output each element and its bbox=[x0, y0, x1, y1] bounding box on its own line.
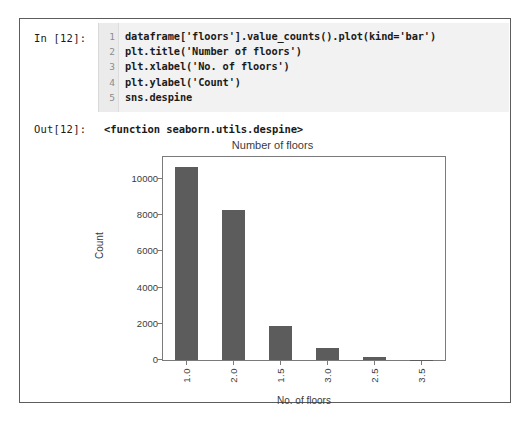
x-tick-label: 1.0 bbox=[181, 368, 192, 383]
x-tick-label: 3.5 bbox=[416, 368, 427, 383]
x-tick-label: 1.5 bbox=[275, 368, 286, 383]
code-line: sns.despine bbox=[125, 90, 509, 105]
line-number: 4 bbox=[99, 75, 118, 90]
line-number: 3 bbox=[99, 59, 118, 74]
bar bbox=[222, 210, 246, 360]
x-tick-mark bbox=[280, 361, 281, 365]
y-tick-mark bbox=[157, 323, 162, 324]
bar bbox=[269, 326, 293, 360]
input-prompt-label: In [12]: bbox=[34, 32, 86, 44]
x-axis-label: No. of floors bbox=[162, 395, 446, 406]
x-tick-label: 2.5 bbox=[369, 368, 380, 383]
x-tick-mark bbox=[421, 361, 422, 365]
y-tick-mark bbox=[157, 178, 162, 179]
line-number-gutter: 1 2 3 4 5 bbox=[99, 23, 119, 112]
code-line: dataframe['floors'].value_counts().plot(… bbox=[125, 29, 509, 44]
x-tick-mark bbox=[327, 361, 328, 365]
y-tick-mark bbox=[157, 250, 162, 251]
matplotlib-figure: Number of floors Count 02000400060008000… bbox=[100, 139, 510, 401]
y-tick-mark bbox=[157, 214, 162, 215]
notebook-cell-frame: In [12]: 1 2 3 4 5 dataframe['floors'].v… bbox=[19, 18, 511, 403]
y-tick-mark bbox=[157, 287, 162, 288]
y-tick-label: 2000 bbox=[137, 317, 158, 328]
plot-area bbox=[162, 156, 446, 361]
x-tick-mark bbox=[186, 361, 187, 365]
x-tick-label: 2.0 bbox=[228, 368, 239, 383]
y-tick-label: 10000 bbox=[132, 172, 158, 183]
bars-container bbox=[163, 157, 445, 360]
y-tick-label: 8000 bbox=[137, 209, 158, 220]
output-repr-text: <function seaborn.utils.despine> bbox=[104, 123, 303, 135]
y-tick-label: 4000 bbox=[137, 281, 158, 292]
y-axis-label: Count bbox=[94, 232, 105, 259]
bar bbox=[316, 348, 340, 360]
code-line: plt.ylabel('Count') bbox=[125, 75, 509, 90]
bar bbox=[175, 167, 199, 360]
code-editor[interactable]: 1 2 3 4 5 dataframe['floors'].value_coun… bbox=[98, 23, 509, 112]
output-prompt-label: Out[12]: bbox=[34, 123, 86, 135]
line-number: 2 bbox=[99, 44, 118, 59]
code-line: plt.xlabel('No. of floors') bbox=[125, 59, 509, 74]
x-tick-label: 3.0 bbox=[322, 368, 333, 383]
bar bbox=[363, 357, 387, 360]
y-tick-label: 6000 bbox=[137, 245, 158, 256]
code-input-cell[interactable]: In [12]: 1 2 3 4 5 dataframe['floors'].v… bbox=[20, 19, 510, 113]
x-tick-mark bbox=[233, 361, 234, 365]
x-tick-mark bbox=[374, 361, 375, 365]
line-number: 1 bbox=[99, 29, 118, 44]
code-text-area[interactable]: dataframe['floors'].value_counts().plot(… bbox=[119, 23, 509, 112]
line-number: 5 bbox=[99, 90, 118, 105]
code-line: plt.title('Number of floors') bbox=[125, 44, 509, 59]
chart-title: Number of floors bbox=[100, 139, 445, 151]
y-tick-mark bbox=[157, 359, 162, 360]
